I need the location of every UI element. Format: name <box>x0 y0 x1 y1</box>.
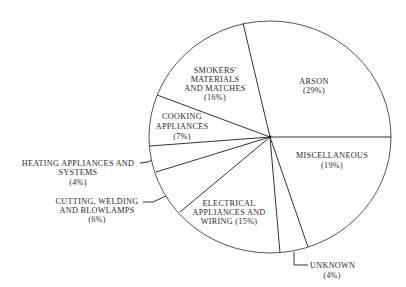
label-cooking-line1: COOKING <box>162 112 202 121</box>
label-heating: HEATING APPLIANCES AND SYSTEMS (4%) <box>22 159 135 187</box>
label-electrical-line3: WIRING (15%) <box>201 217 258 226</box>
leader-unknown <box>294 252 308 265</box>
label-smokers-line3: AND MATCHES <box>184 84 245 93</box>
label-smokers-line2: MATERIALS <box>191 75 240 84</box>
label-misc-name: MISCELLANEOUS <box>296 151 368 160</box>
label-arson-name: ARSON <box>299 77 328 86</box>
label-arson: ARSON (29%) <box>299 77 328 95</box>
label-unknown: UNKNOWN (4%) <box>310 261 355 280</box>
label-cutting-pct: (6%) <box>88 215 106 224</box>
label-electrical: ELECTRICAL APPLIANCES AND WIRING (15%) <box>192 199 265 226</box>
center-point <box>269 136 272 139</box>
label-arson-pct: (29%) <box>303 86 325 95</box>
leader-cutting <box>143 196 166 202</box>
label-unknown-name: UNKNOWN <box>310 261 355 270</box>
label-cutting-line1: CUTTING, WELDING <box>56 197 139 206</box>
label-heating-pct: (4%) <box>69 178 87 187</box>
label-cooking-line2: APPLIANCES <box>156 122 209 131</box>
leader-heating <box>140 160 152 163</box>
label-cutting: CUTTING, WELDING AND BLOWLAMPS (6%) <box>56 197 139 224</box>
label-smokers-pct: (16%) <box>204 93 226 102</box>
pie-chart: ARSON (29%) SMOKERS' MATERIALS AND MATCH… <box>0 0 406 287</box>
label-misc-pct: (19%) <box>321 161 343 170</box>
label-electrical-line1: ELECTRICAL <box>202 199 255 208</box>
label-unknown-pct: (4%) <box>323 271 341 280</box>
label-heating-line2: SYSTEMS <box>59 168 98 177</box>
label-cooking-pct: (7%) <box>173 132 191 141</box>
label-electrical-line2: APPLIANCES AND <box>192 208 265 217</box>
label-heating-line1: HEATING APPLIANCES AND <box>22 159 135 168</box>
label-smokers-line1: SMOKERS' <box>194 66 237 75</box>
label-cutting-line2: AND BLOWLAMPS <box>59 206 134 215</box>
